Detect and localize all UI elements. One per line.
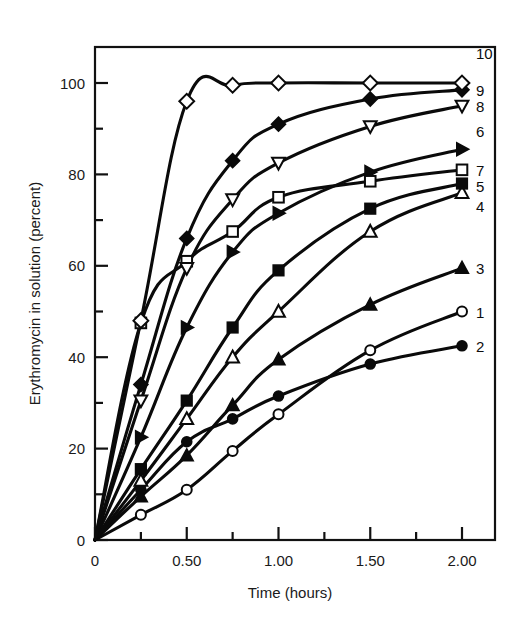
x-tick-label: 0.50 [172,552,201,569]
x-axis-title: Time (hours) [248,584,332,601]
y-tick-label: 40 [68,349,85,366]
data-point-marker-filled-circle [228,414,238,424]
data-point-marker-filled-circle [457,341,467,351]
y-tick-label: 0 [77,532,85,549]
data-point-marker-filled-circle [274,391,284,401]
data-point-marker-filled-square [227,322,238,333]
y-axis-title: Erythromycin in solution (percent) [26,182,43,405]
data-point-marker-open-square [227,226,238,237]
data-point-marker-filled-circle [365,359,375,369]
x-tick-label: 0 [91,552,99,569]
x-tick-label: 1.50 [356,552,385,569]
data-point-marker-open-square [273,192,284,203]
data-point-marker-filled-triangle-up [456,261,469,273]
series-label-3: 3 [476,260,484,277]
data-point-marker-open-diamond [271,76,286,91]
plot-frame [95,47,495,540]
data-point-marker-filled-circle [182,437,192,447]
series-label-2: 2 [476,338,484,355]
series-label-8: 8 [476,98,484,115]
data-point-marker-open-circle [228,446,238,456]
erythromycin-dissolution-chart: 020406080100 00.501.001.502.00 123456789… [0,0,521,633]
series-label-6: 6 [476,123,484,140]
data-point-marker-filled-diamond [363,92,377,106]
data-point-marker-filled-square [181,395,192,406]
series-label-7: 7 [476,162,484,179]
data-point-marker-filled-square [273,265,284,276]
data-point-marker-open-diamond [179,94,194,109]
y-tick-label: 60 [68,257,85,274]
data-point-marker-open-circle [457,307,467,317]
data-markers-group [133,76,469,520]
data-point-marker-filled-diamond [180,231,194,245]
y-axis-ticks [95,83,108,540]
x-axis-ticks [95,527,462,540]
data-point-marker-filled-diamond [272,117,286,131]
data-point-marker-open-circle [365,345,375,355]
data-point-marker-open-square [365,176,376,187]
x-axis-tick-labels: 00.501.001.502.00 [91,552,477,569]
data-point-marker-open-diamond [363,76,378,91]
y-tick-label: 80 [68,166,85,183]
data-point-marker-filled-square [365,203,376,214]
data-point-marker-filled-square [136,464,147,475]
data-point-marker-open-square [457,165,468,176]
x-tick-label: 2.00 [447,552,476,569]
series-label-9: 9 [476,82,484,99]
y-axis-tick-labels: 020406080100 [60,75,85,549]
series-label-4: 4 [476,198,484,215]
data-point-marker-open-diamond [225,78,240,93]
data-point-marker-open-circle [274,409,284,419]
data-point-marker-filled-square [457,178,468,189]
y-tick-label: 20 [68,440,85,457]
y-tick-label: 100 [60,75,85,92]
data-point-marker-open-circle [182,485,192,495]
data-point-marker-open-triangle-up [364,225,377,237]
series-curve-1 [95,312,462,541]
data-point-marker-open-triangle-down [180,263,193,275]
data-point-marker-open-circle [136,510,146,520]
series-end-labels: 12345678910 [476,45,493,354]
series-label-1: 1 [476,304,484,321]
series-label-10: 10 [476,45,493,62]
chart-figure: 020406080100 00.501.001.502.00 123456789… [0,0,521,633]
data-point-marker-filled-triangle-right [457,143,469,156]
series-label-5: 5 [476,178,484,195]
x-tick-label: 1.00 [264,552,293,569]
